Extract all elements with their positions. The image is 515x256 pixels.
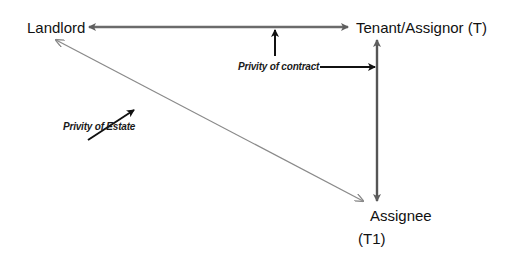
label-privity-of-contract: Privity of contract [238,62,319,72]
node-tenant-assignor: Tenant/Assignor (T) [356,20,487,35]
node-assignee-id: (T1) [358,231,386,246]
label-privity-of-estate: Privity of Estate [63,122,135,132]
node-assignee: Assignee [370,208,432,223]
node-landlord: Landlord [27,20,85,35]
